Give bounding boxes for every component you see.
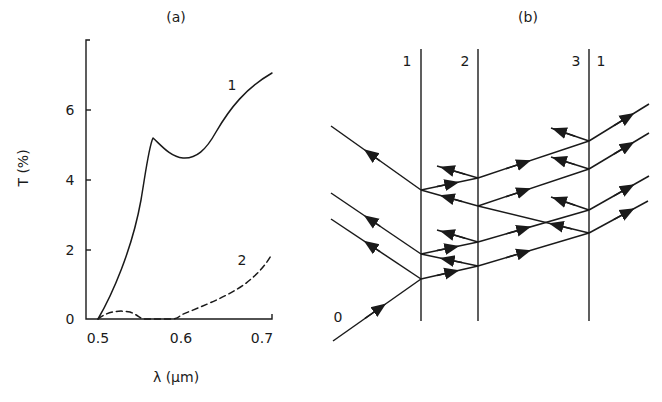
x-ticks: 0.5 0.6 0.7: [87, 330, 273, 346]
panel-a-chart: (a) 0 2 4 6 0.5 0.6 0.7 λ (μm) T (%) 1 2: [15, 9, 273, 385]
xtick-0.5: 0.5: [87, 330, 109, 346]
interface-label-1: 1: [403, 53, 412, 69]
axes: [86, 40, 272, 319]
interface-label-1-right: 1: [597, 53, 606, 69]
ytick-2: 2: [66, 242, 75, 258]
interface-label-3: 3: [572, 53, 581, 69]
incident-ray: 0: [333, 279, 421, 341]
series-1-label: 1: [228, 77, 237, 93]
panel-a-label: (a): [166, 9, 186, 25]
interface-label-2: 2: [461, 53, 470, 69]
ytick-4: 4: [66, 172, 75, 188]
panel-b-diagram: (b) 1 2 3 1 0: [331, 9, 649, 341]
series-2-label: 2: [238, 252, 247, 268]
figure-canvas: (a) 0 2 4 6 0.5 0.6 0.7 λ (μm) T (%) 1 2: [0, 0, 662, 402]
incident-label: 0: [334, 309, 343, 325]
xtick-0.7: 0.7: [251, 330, 273, 346]
y-axis-label: T (%): [15, 149, 31, 187]
xtick-0.6: 0.6: [170, 330, 192, 346]
ray-network: [331, 104, 649, 279]
series-1-line: [98, 73, 272, 319]
x-axis-label: λ (μm): [153, 369, 199, 385]
panel-b-label: (b): [518, 9, 538, 25]
ytick-0: 0: [66, 311, 75, 327]
y-ticks: 0 2 4 6: [66, 102, 91, 327]
ytick-6: 6: [66, 102, 75, 118]
